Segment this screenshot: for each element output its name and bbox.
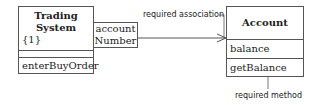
required-association-label: required association (143, 10, 224, 20)
trading-system-name-line2: System (19, 22, 93, 34)
account-name: Account (227, 17, 303, 29)
trading-system-class: Trading System {1} enterBuyOrder (18, 6, 94, 74)
qualifier-line1: account (94, 23, 137, 35)
required-method-label: required method (235, 91, 302, 101)
account-method: getBalance (227, 58, 303, 77)
trading-system-name-line1: Trading (19, 10, 93, 22)
trading-system-method: enterBuyOrder (19, 57, 93, 74)
trading-system-header: Trading System {1} (19, 10, 93, 50)
qualifier-box: account Number (93, 22, 138, 48)
multiplicity: {1} (19, 34, 93, 46)
account-attribute: balance (227, 39, 303, 58)
account-class: Account balance getBalance (226, 6, 304, 77)
qualifier-line2: Number (94, 35, 137, 47)
trading-system-attributes (19, 50, 93, 57)
